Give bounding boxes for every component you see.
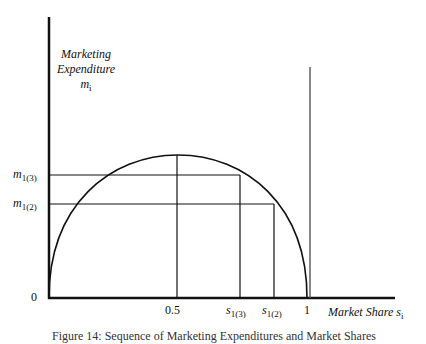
- origin-label: 0: [31, 291, 37, 303]
- y-tick-m12: m1(2): [13, 197, 37, 212]
- x-tick-one: 1: [304, 304, 310, 316]
- figure-caption: Figure 14: Sequence of Marketing Expendi…: [52, 329, 376, 344]
- y-axis-label-line1: Marketing: [52, 47, 120, 62]
- x-tick-s13: s1(3): [226, 304, 246, 319]
- y-tick-m13: m1(3): [13, 168, 37, 183]
- y-axis-label-line2: Expenditure: [52, 62, 120, 77]
- x-axis-label: Market Share si: [328, 306, 403, 321]
- y-axis-label: Marketing Expenditure mi: [52, 47, 120, 96]
- y-axis-symbol: mi: [52, 77, 120, 96]
- x-tick-half: 0.5: [165, 304, 180, 316]
- semicircle-curve: [49, 155, 307, 298]
- x-tick-s12: s1(2): [262, 304, 282, 319]
